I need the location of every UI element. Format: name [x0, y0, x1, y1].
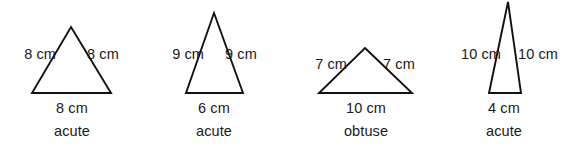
- triangle-4-left-side-label: 10 cm: [439, 47, 501, 62]
- triangle-1-right-side-label: 8 cm: [87, 47, 141, 62]
- triangle-2-left-side-label: 9 cm: [150, 47, 204, 62]
- triangle-3-left-side-label: 7 cm: [293, 57, 347, 72]
- triangles-figure: 8 cm 8 cm 8 cm acute 9 cm 9 cm 6 cm acut…: [0, 0, 580, 151]
- triangle-2-classification: acute: [174, 124, 254, 139]
- triangle-3-base-label: 10 cm: [329, 101, 403, 116]
- triangle-1-base-label: 8 cm: [36, 101, 108, 116]
- triangle-2-right-side-label: 9 cm: [225, 47, 279, 62]
- triangle-4-base-label: 4 cm: [468, 101, 540, 116]
- triangle-4-classification: acute: [464, 124, 544, 139]
- triangle-3-right-side-label: 7 cm: [383, 57, 437, 72]
- triangle-4-right-side-label: 10 cm: [518, 47, 580, 62]
- triangle-1-classification: acute: [32, 124, 112, 139]
- triangle-3-classification: obtuse: [325, 124, 407, 139]
- triangle-2-base-label: 6 cm: [178, 101, 250, 116]
- triangle-1-left-side-label: 8 cm: [2, 47, 56, 62]
